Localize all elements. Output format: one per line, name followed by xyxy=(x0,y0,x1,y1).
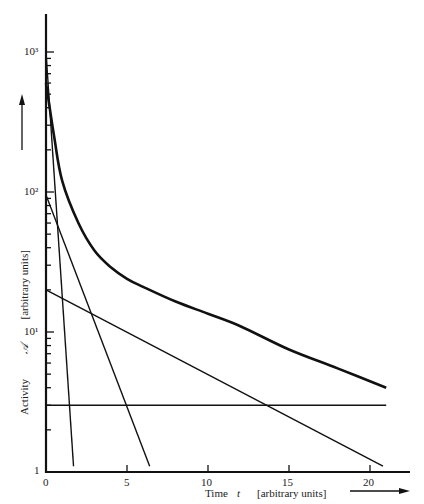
y-tick-label-100: 10² xyxy=(24,185,38,197)
x-axis-label: Time xyxy=(205,487,228,499)
y-axis-label-symbol: 𝒜 xyxy=(18,344,31,354)
x-ticks xyxy=(127,465,370,472)
x-axis-units: [arbitrary units] xyxy=(257,487,326,499)
x-tick-label-0: 0 xyxy=(43,476,49,488)
x-tick-label-20: 20 xyxy=(363,476,374,488)
y-axis-label-units: [arbitrary units] xyxy=(18,250,30,319)
series-group xyxy=(46,52,386,466)
x-axis-symbol: t xyxy=(237,487,240,499)
y-axis-label: Activity 𝒜 [arbitrary units] xyxy=(18,250,31,415)
x-axis-arrow-icon xyxy=(350,488,410,494)
total-activity-curve xyxy=(46,83,386,388)
y-axis-arrow-icon xyxy=(19,94,25,150)
component-line-1 xyxy=(46,52,74,466)
y-tick-label-1000: 10³ xyxy=(24,45,38,57)
component-line-2 xyxy=(46,195,150,466)
y-axis-label-word: Activity xyxy=(18,379,30,415)
x-tick-label-5: 5 xyxy=(124,476,130,488)
decay-chart xyxy=(0,0,424,504)
y-tick-label-1: 1 xyxy=(34,464,40,476)
